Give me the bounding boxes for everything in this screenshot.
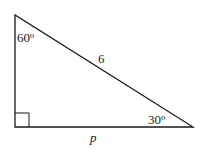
bottom-right-angle-label: 30º [148, 112, 165, 127]
base-label: p [89, 130, 97, 145]
top-angle-label: 60º [17, 30, 34, 45]
right-angle-marker [15, 113, 29, 127]
triangle-diagram: 60º 6 30º p [0, 0, 204, 150]
triangle [15, 15, 193, 127]
hypotenuse-label: 6 [98, 51, 105, 66]
